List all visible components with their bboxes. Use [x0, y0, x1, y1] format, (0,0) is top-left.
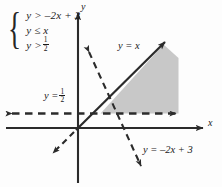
label-fraction-denominator: 2: [59, 95, 65, 104]
y-axis-label: y: [81, 2, 85, 12]
fraction-numerator: 1: [43, 36, 49, 44]
brace-glyph: {: [8, 11, 21, 47]
fraction-one-half: 1 2: [43, 36, 49, 52]
x-axis-label: x: [208, 118, 212, 128]
inequality-row-3-lead: y >: [26, 39, 42, 51]
label-fraction-numerator: 1: [59, 88, 65, 96]
fraction-denominator: 2: [43, 44, 49, 53]
label-line-y-equals-neg-2x-plus-3: y = –2x + 3: [143, 145, 193, 156]
inequality-row-1: y > –2x + 3: [26, 8, 80, 21]
label-line-y-equals-one-half: y = 1 2: [44, 88, 65, 104]
system-of-inequalities: { y > –2x + 3 y ≤ x y > 1 2: [4, 8, 80, 51]
label-line-y-equals-x: y = x: [118, 41, 140, 52]
inequality-row-2: y ≤ x: [26, 23, 80, 36]
inequality-row-3: y > 1 2: [26, 38, 80, 51]
label-yhalf-lead: y =: [44, 91, 58, 102]
inequality-graph-figure: { y > –2x + 3 y ≤ x y > 1 2 y = x y = 1 …: [0, 0, 222, 187]
solution-region: [101, 45, 179, 114]
inequality-rows: y > –2x + 3 y ≤ x y > 1 2: [26, 8, 80, 51]
label-fraction-one-half: 1 2: [59, 88, 65, 104]
